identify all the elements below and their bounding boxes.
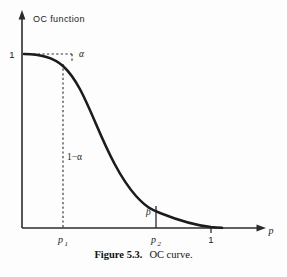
alpha-label: α: [79, 49, 85, 59]
y-tick-label-one: 1: [9, 49, 14, 60]
x-axis-arrowhead: [257, 225, 267, 232]
figure-caption-number: Figure 5.3.: [94, 249, 142, 260]
x-tick-label-p1-sub: 1: [65, 240, 69, 248]
x-axis-label: p: [268, 225, 274, 236]
figure-caption-text: OC curve.: [149, 249, 192, 260]
x-tick-label-p1: p 1: [57, 234, 68, 248]
y-axis-label: OC function: [33, 14, 85, 24]
oc-curve-plot: OC function 1 α 1−α β p 1 p 2 1 p: [0, 0, 287, 248]
x-tick-label-p1-base: p: [57, 234, 63, 245]
x-tick-label-p2: p 2: [150, 234, 162, 248]
oc-curve-figure: OC function 1 α 1−α β p 1 p 2 1 p: [0, 0, 287, 277]
one-minus-alpha-label: 1−α: [67, 152, 82, 162]
y-axis-arrowhead: [19, 10, 26, 20]
oc-curve-path: [24, 54, 222, 228]
figure-caption: Figure 5.3.OC curve.: [0, 249, 287, 260]
x-tick-label-p2-base: p: [150, 234, 156, 245]
x-tick-label-p2-sub: 2: [158, 240, 162, 248]
beta-label: β: [145, 207, 151, 217]
plot-area: OC function 1 α 1−α β p 1 p 2 1 p: [0, 0, 287, 248]
x-tick-label-one: 1: [208, 234, 213, 245]
